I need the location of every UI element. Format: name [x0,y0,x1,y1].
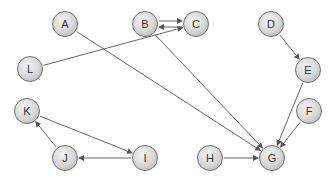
node-g: G [259,145,285,171]
node-c: C [183,11,209,37]
node-e: E [295,57,321,83]
node-a: A [52,11,78,37]
edge-k-to-i [40,116,132,153]
node-h: H [197,145,223,171]
edge-j-to-k [36,122,56,147]
node-l: L [17,56,43,82]
node-d: D [258,11,284,37]
node-f: F [296,98,322,124]
edge-d-to-e [280,35,299,59]
node-k: K [14,98,40,124]
directed-graph: ABCDELKFJIHG [0,0,332,179]
node-j: J [52,145,78,171]
node-b: B [132,11,158,37]
node-i: I [132,145,158,171]
edge-f-to-g [281,122,301,147]
edge-b-to-g [155,34,263,148]
